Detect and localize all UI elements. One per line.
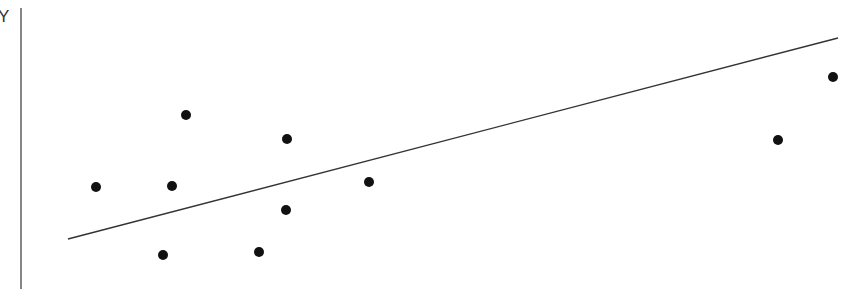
- data-point: [91, 182, 101, 192]
- data-point: [828, 72, 838, 82]
- data-point: [167, 181, 177, 191]
- data-point: [181, 110, 191, 120]
- data-point: [281, 205, 291, 215]
- trend-line: [68, 38, 838, 239]
- data-point: [364, 177, 374, 187]
- scatter-plot: [0, 0, 857, 289]
- data-point: [254, 247, 264, 257]
- data-point: [773, 135, 783, 145]
- data-points: [91, 72, 838, 260]
- data-point: [158, 250, 168, 260]
- data-point: [282, 134, 292, 144]
